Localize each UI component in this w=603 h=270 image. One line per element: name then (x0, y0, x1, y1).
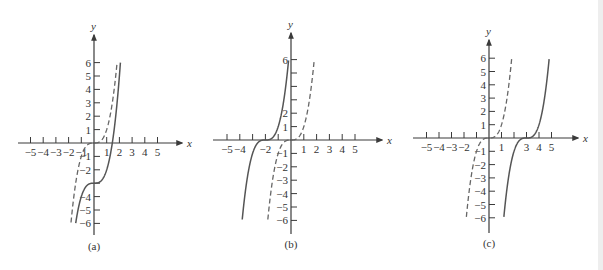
x-tick-label: 5 (352, 143, 358, 155)
x-tick-label: 1 (301, 143, 307, 155)
y-tick-label: 1 (283, 121, 289, 133)
y-tick-label: −6 (276, 214, 288, 226)
graph-panel-a: xy−5−4−3−2−112345−6−5−4−2−1123456(a) (18, 20, 192, 253)
y-tick-label: 3 (86, 97, 92, 109)
x-tick-label: 5 (155, 146, 161, 158)
x-tick-label: −4 (37, 146, 49, 158)
y-tick-label: 4 (86, 83, 92, 95)
x-tick-label: −3 (446, 141, 458, 153)
x-tick-label: −5 (221, 143, 233, 155)
y-tick-label: −5 (276, 201, 288, 213)
graph-panel-c: xy−5−4−3−21345−6−5−4−3−2−1123456(c) (413, 25, 588, 250)
y-tick-label: 5 (86, 70, 92, 82)
y-tick-label: −4 (474, 185, 486, 197)
y-tick-label: 6 (86, 57, 92, 69)
x-tick-label: 1 (104, 146, 110, 158)
cubic-transformations-figure: xy−5−4−3−2−112345−6−5−4−2−1123456(a) xy−… (0, 0, 603, 270)
x-tick-label: −3 (50, 146, 62, 158)
y-tick-label: 6 (481, 52, 487, 64)
y-tick-label: −4 (276, 188, 288, 200)
x-tick-label: −5 (421, 141, 433, 153)
x-axis-label: x (386, 134, 392, 146)
y-tick-label: 1 (481, 119, 487, 131)
y-tick-label: 5 (481, 66, 487, 78)
y-tick-label: −2 (474, 159, 486, 171)
x-tick-label: −2 (63, 146, 75, 158)
x-axis-label: x (186, 137, 192, 149)
x-tick-label: −4 (234, 143, 246, 155)
y-axis-label: y (90, 20, 96, 32)
y-tick-label: 4 (481, 79, 487, 91)
y-tick-label: −5 (79, 204, 91, 216)
y-axis-label: y (287, 18, 293, 30)
panel-caption: (c) (483, 237, 496, 250)
x-tick-label: −2 (260, 143, 272, 155)
x-tick-label: 4 (536, 141, 542, 153)
y-tick-label: 2 (86, 110, 92, 122)
y-tick-label: −6 (474, 212, 486, 224)
x-tick-label: −4 (433, 141, 445, 153)
x-tick-label: 4 (142, 146, 148, 158)
x-tick-label: 4 (339, 143, 345, 155)
x-tick-label: 3 (129, 146, 135, 158)
x-tick-label: −5 (25, 146, 37, 158)
y-tick-label: 2 (481, 105, 487, 117)
y-tick-label: −2 (276, 161, 288, 173)
y-tick-label: −5 (474, 199, 486, 211)
x-tick-label: 5 (549, 141, 555, 153)
panel-caption: (a) (88, 240, 101, 253)
y-tick-label: −3 (276, 174, 288, 186)
graph-panel-b: xy−5−4−212345−6−5−4−3−2−1126(b) (213, 18, 392, 251)
x-tick-label: 3 (524, 141, 530, 153)
y-tick-label: 1 (86, 124, 92, 136)
x-tick-label: 2 (314, 143, 320, 155)
y-tick-label: −6 (79, 217, 91, 229)
panel-caption: (b) (285, 238, 298, 251)
y-axis-label: y (485, 25, 491, 37)
y-tick-label: −3 (474, 172, 486, 184)
x-tick-label: 1 (499, 141, 505, 153)
x-tick-label: 3 (327, 143, 333, 155)
x-axis-label: x (582, 132, 588, 144)
y-tick-label: 2 (283, 107, 289, 119)
y-tick-label: −2 (79, 164, 91, 176)
page-edge-strip (598, 0, 603, 270)
y-tick-label: 3 (481, 92, 487, 104)
x-tick-label: 2 (117, 146, 123, 158)
x-tick-label: −2 (458, 141, 470, 153)
